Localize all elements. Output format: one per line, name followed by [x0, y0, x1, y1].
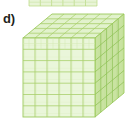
figure-d-thousand-cube: d): [0, 0, 129, 121]
figure-label-d: d): [3, 12, 15, 25]
cube-front-face: [23, 38, 95, 117]
cutoff-figure-above: [29, 0, 97, 6]
cube-illustration: [0, 0, 129, 121]
